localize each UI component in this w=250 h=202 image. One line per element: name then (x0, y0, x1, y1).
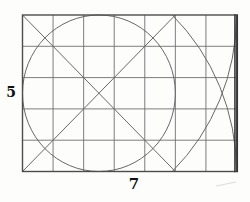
scan-smudge (216, 182, 236, 186)
corner-arc-bottom (172, 15, 236, 172)
width-label: 7 (125, 177, 143, 192)
rect-border (23, 15, 237, 172)
geometry-figure (0, 0, 250, 202)
height-label: 5 (4, 85, 18, 99)
corner-arc-top (172, 15, 236, 172)
figure-canvas: 5 7 (0, 0, 250, 202)
